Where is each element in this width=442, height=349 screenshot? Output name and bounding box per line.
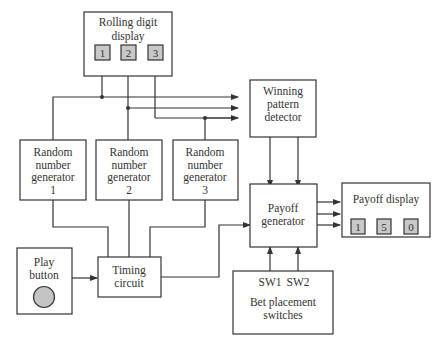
rng1-label-4: 1 — [50, 184, 56, 196]
payoff-generator-label-2: generator — [261, 215, 305, 228]
switches-label-1: Bet placement — [250, 296, 317, 309]
detector-label-2: pattern — [267, 98, 299, 111]
detector-label-3: detector — [264, 111, 301, 123]
payoff-generator-label-1: Payoff — [268, 202, 299, 215]
random-number-generator-2-block: Random number generator 2 — [96, 140, 162, 200]
timing-circuit-block: Timing circuit — [98, 257, 161, 297]
sw2-label: SW2 — [287, 276, 310, 288]
block-diagram: Rolling digit display 1 2 3 Random numbe… — [0, 0, 442, 349]
bet-placement-switches-block: SW1 SW2 Bet placement switches — [233, 271, 333, 334]
rng2-label-4: 2 — [126, 184, 132, 196]
sw1-label: SW1 — [259, 276, 282, 288]
rng1-label-3: generator — [31, 171, 75, 184]
rng2-label-3: generator — [107, 171, 151, 184]
payoff-digit-1-value: 1 — [355, 221, 361, 233]
rolling-display-label-1: Rolling digit — [99, 16, 158, 29]
rng3-label-2: number — [187, 159, 222, 171]
timing-label-2: circuit — [114, 277, 144, 289]
rng2-label-2: number — [111, 159, 146, 171]
timing-label-1: Timing — [112, 264, 146, 277]
play-label-2: button — [29, 269, 59, 281]
rolling-display-label-2: display — [111, 30, 144, 43]
winning-pattern-detector-block: Winning pattern detector — [250, 80, 316, 137]
payoff-generator-block: Payoff generator — [250, 184, 317, 247]
rolling-digit-1-value: 1 — [100, 47, 106, 59]
play-button-icon[interactable] — [34, 287, 55, 308]
rng1-label-1: Random — [34, 146, 73, 158]
rng1-label-2: number — [35, 159, 70, 171]
rng3-label-4: 3 — [202, 184, 208, 196]
rolling-digit-2-value: 2 — [126, 47, 132, 59]
play-button-block: Play button — [17, 248, 72, 314]
payoff-display-label: Payoff display — [353, 193, 420, 206]
rolling-digit-display-block: Rolling digit display 1 2 3 — [84, 12, 172, 76]
play-label-1: Play — [34, 256, 55, 269]
rolling-digit-3-value: 3 — [153, 47, 159, 59]
switches-label-2: switches — [263, 309, 303, 321]
random-number-generator-3-block: Random number generator 3 — [173, 140, 238, 200]
detector-label-1: Winning — [263, 85, 303, 98]
payoff-digit-2-value: 5 — [381, 221, 387, 233]
payoff-display-block: Payoff display 1 5 0 — [342, 183, 430, 237]
rng3-label-3: generator — [183, 171, 227, 184]
rng2-label-1: Random — [110, 146, 149, 158]
payoff-digit-3-value: 0 — [408, 221, 414, 233]
random-number-generator-1-block: Random number generator 1 — [20, 140, 86, 200]
rng3-label-1: Random — [186, 146, 225, 158]
